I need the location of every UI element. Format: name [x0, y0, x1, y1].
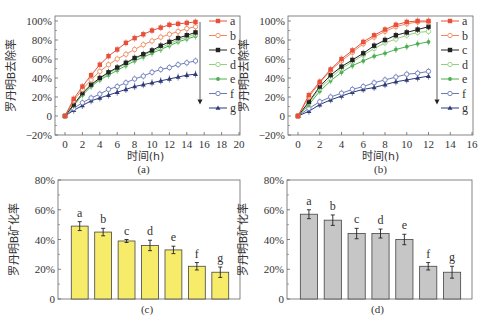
y-tick-label: 20%: [35, 263, 55, 275]
y-tick-label: 60%: [264, 204, 284, 216]
bar-d: [142, 245, 159, 299]
legend-label: e: [230, 72, 235, 86]
y-tick-label: 40%: [32, 72, 52, 84]
marker-circle-icon: [394, 75, 398, 79]
legend: abcdefg: [198, 14, 237, 115]
marker-circle-icon: [448, 91, 452, 95]
marker-star-icon: [361, 59, 365, 63]
bar-chart-d: 020%40%60%80%罗丹明B矿化率abcdefg(d): [236, 174, 472, 316]
y-tick-label: 80%: [35, 174, 55, 186]
plot-frame: [55, 16, 240, 135]
marker-square-icon: [307, 93, 311, 97]
series-a: [296, 18, 431, 119]
legend-label: g: [230, 101, 236, 115]
marker-circle-icon: [415, 71, 419, 75]
marker-circle-icon: [185, 26, 189, 30]
marker-circle-icon: [216, 33, 220, 37]
marker-square-icon: [415, 19, 419, 23]
marker-circle-icon: [216, 62, 220, 66]
marker-square-icon: [141, 52, 145, 56]
marker-circle-icon: [383, 78, 387, 82]
y-tick-label: 60%: [32, 53, 52, 65]
marker-square-icon: [339, 57, 343, 61]
marker-square-icon: [132, 36, 136, 40]
bar-label: c: [354, 212, 359, 226]
marker-circle-icon: [124, 52, 128, 56]
marker-square-icon: [318, 80, 322, 84]
marker-star-icon: [405, 45, 409, 49]
marker-circle-icon: [193, 59, 197, 63]
marker-circle-icon: [176, 29, 180, 33]
series-g: [296, 73, 432, 118]
marker-square-icon: [350, 58, 354, 62]
marker-square-icon: [63, 114, 67, 118]
marker-square-icon: [383, 27, 387, 31]
y-tick-label: 60%: [35, 204, 55, 216]
panel-caption: (b): [374, 163, 387, 176]
y-tick-label: 100%: [26, 15, 52, 27]
marker-square-icon: [141, 32, 145, 36]
marker-star-icon: [372, 54, 376, 58]
y-tick-label: 80%: [32, 34, 52, 46]
panel-caption: (a): [137, 163, 150, 176]
marker-square-icon: [361, 40, 365, 44]
marker-circle-icon: [159, 67, 163, 71]
marker-square-icon: [72, 97, 76, 101]
marker-circle-icon: [150, 70, 154, 74]
legend-label: b: [230, 29, 236, 43]
marker-square-icon: [159, 44, 163, 48]
y-tick-label: 40%: [35, 234, 55, 246]
bar-e: [165, 250, 182, 299]
marker-circle-icon: [372, 81, 376, 85]
marker-circle-icon: [328, 95, 332, 99]
marker-circle-icon: [141, 74, 145, 78]
bar-b: [95, 232, 112, 299]
legend-label: b: [462, 29, 468, 43]
marker-square-icon: [89, 73, 93, 77]
marker-square-icon: [328, 67, 332, 71]
marker-square-icon: [193, 20, 197, 24]
marker-circle-icon: [448, 62, 452, 66]
series-b: [296, 18, 431, 118]
marker-circle-icon: [106, 62, 110, 66]
marker-square-icon: [98, 63, 102, 67]
marker-square-icon: [176, 22, 180, 26]
marker-circle-icon: [150, 39, 154, 43]
marker-circle-icon: [115, 57, 119, 61]
marker-circle-icon: [361, 84, 365, 88]
marker-star-icon: [394, 48, 398, 52]
line-chart-b: −20%020%40%60%80%100%罗丹明B去除率024681012141…: [237, 14, 478, 176]
y-axis-label: 罗丹明B去除率: [237, 39, 251, 113]
legend-label: a: [462, 14, 468, 28]
marker-square-icon: [296, 114, 300, 118]
bar-label: f: [195, 247, 199, 261]
legend-label: a: [230, 14, 236, 28]
marker-square-icon: [185, 21, 189, 25]
x-tick-label: 12: [164, 138, 175, 150]
legend-label: f: [230, 87, 234, 101]
bar-label: b: [330, 199, 336, 213]
marker-circle-icon: [115, 84, 119, 88]
marker-square-icon: [150, 48, 154, 52]
y-tick-label: 80%: [264, 174, 284, 186]
marker-circle-icon: [318, 100, 322, 104]
x-tick-label: 8: [382, 138, 388, 150]
marker-square-icon: [124, 41, 128, 45]
marker-square-icon: [176, 36, 180, 40]
marker-square-icon: [383, 38, 387, 42]
bar-label: a: [306, 194, 312, 208]
x-tick-label: 10: [147, 138, 159, 150]
bar-label: c: [124, 224, 129, 238]
marker-circle-icon: [176, 62, 180, 66]
marker-star-icon: [216, 77, 220, 81]
marker-square-icon: [394, 33, 398, 37]
marker-square-icon: [339, 64, 343, 68]
x-tick-label: 2: [80, 138, 86, 150]
legend-label: d: [462, 58, 468, 72]
marker-circle-icon: [426, 69, 430, 73]
marker-circle-icon: [216, 91, 220, 95]
marker-circle-icon: [89, 96, 93, 100]
marker-square-icon: [394, 23, 398, 27]
marker-square-icon: [216, 48, 220, 52]
y-tick-label: 0: [50, 293, 56, 305]
